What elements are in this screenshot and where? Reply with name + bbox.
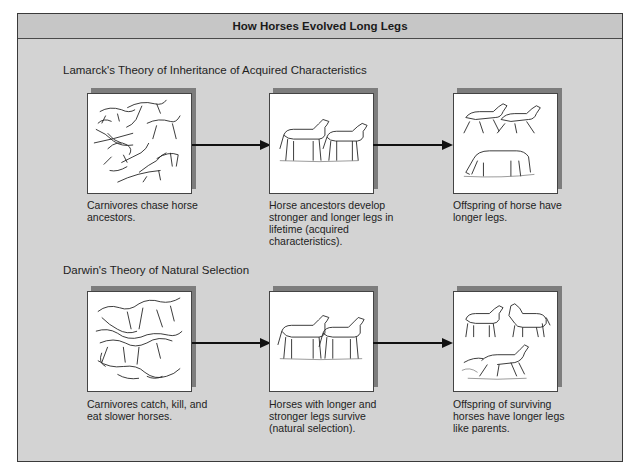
darwin-caption-3: Offspring of surviving horses have longe… (453, 398, 583, 434)
darwin-panel-2 (269, 291, 374, 392)
lamarck-arrow-1 (192, 144, 269, 146)
offspring-surviving-horses-illustration-icon (453, 291, 558, 392)
darwin-panel-3 (453, 291, 558, 392)
darwin-caption-2: Horses with longer and stronger legs sur… (269, 398, 399, 434)
darwin-panel-1 (87, 291, 192, 392)
darwin-row-title: Darwin's Theory of Natural Selection (63, 264, 249, 276)
arrowhead-icon (442, 140, 453, 150)
offspring-horses-illustration-icon (453, 93, 558, 194)
two-horses-illustration-icon (269, 93, 374, 194)
lamarck-panel-2 (269, 93, 374, 194)
lamarck-caption-2: Horse ancestors develop stronger and lon… (269, 199, 399, 247)
figure-title: How Horses Evolved Long Legs (18, 14, 622, 39)
darwin-caption-1: Carnivores catch, kill, and eat slower h… (87, 398, 217, 422)
lamarck-caption-3: Offspring of horse have longer legs. (453, 199, 583, 223)
carnivores-chase-illustration-icon (87, 93, 192, 194)
two-horses-illustration-icon (269, 291, 374, 392)
carnivores-kill-illustration-icon (87, 291, 192, 392)
lamarck-panel-1 (87, 93, 192, 194)
lamarck-caption-1: Carnivores chase horse ancestors. (87, 199, 217, 223)
darwin-arrow-2 (373, 342, 451, 344)
arrowhead-icon (442, 338, 453, 348)
lamarck-row-title: Lamarck's Theory of Inheritance of Acqui… (63, 64, 367, 76)
figure-frame: How Horses Evolved Long Legs Lamarck's T… (17, 13, 623, 462)
darwin-arrow-1 (192, 342, 269, 344)
lamarck-arrow-2 (373, 144, 451, 146)
lamarck-panel-3 (453, 93, 558, 194)
